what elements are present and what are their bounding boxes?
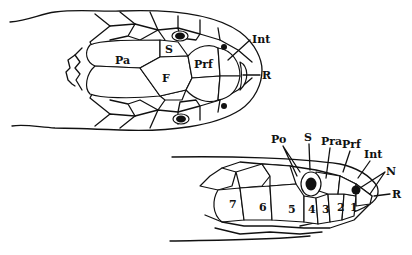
label-supraocular: S [165, 43, 173, 56]
temporal-scale [200, 168, 236, 190]
label-internasal-lateral: Int [364, 148, 383, 161]
eye-bottom [176, 116, 186, 123]
prefrontal-scale-lower [186, 76, 220, 102]
supralabial-number-3: 3 [322, 203, 330, 216]
diagram-canvas: Pa S F Prf Int R [0, 0, 412, 255]
label-supraocular-lateral: S [304, 131, 312, 144]
internasal-scale-lower [218, 76, 240, 100]
label-prefrontal: Prf [194, 58, 214, 71]
label-rostral: R [262, 69, 272, 82]
nostril-bottom [221, 103, 227, 109]
label-postocular: Po [271, 133, 286, 146]
nostril-lateral [352, 186, 361, 195]
label-rostral-lateral: R [392, 188, 402, 201]
label-internasal: Int [252, 33, 271, 46]
dorsal-view: Pa S F Prf Int R [10, 11, 272, 131]
supralabial-number-4: 4 [308, 203, 316, 216]
supralabial-number-1: 1 [350, 201, 358, 214]
rostral-scale [240, 62, 247, 90]
nostril-top [221, 44, 227, 50]
eye-top [175, 33, 185, 40]
eye-lateral [306, 178, 317, 191]
label-parietal: Pa [115, 54, 130, 67]
label-nasal: N [386, 165, 396, 178]
leader-rostral [374, 194, 390, 196]
lateral-view: 7 6 5 4 3 2 1 Po S Pra Prf Int N R [170, 131, 402, 241]
leader-internasal [358, 161, 370, 178]
leader-supraocular [309, 144, 310, 170]
supralabial-number-6: 6 [259, 201, 267, 214]
supralabial-number-2: 2 [337, 201, 345, 214]
label-prefrontal-lateral: Prf [342, 138, 362, 151]
label-preocular: Pra [321, 135, 342, 148]
supralabial-6 [240, 186, 272, 220]
supralabial-5 [270, 184, 304, 222]
supralabial-number-5: 5 [288, 203, 296, 216]
leader-prefrontal [343, 151, 350, 172]
snake-head-scale-diagram: Pa S F Prf Int R [0, 0, 412, 255]
supralabial-number-7: 7 [229, 198, 237, 211]
label-frontal: F [162, 72, 170, 85]
